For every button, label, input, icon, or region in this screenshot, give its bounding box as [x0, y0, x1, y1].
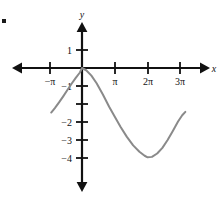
- y-axis-group: [77, 22, 88, 192]
- y-tick-label-neg-4: −4: [61, 153, 72, 164]
- y-tick-label-1: 1: [67, 45, 72, 56]
- x-tick-label-pi: π: [112, 76, 117, 87]
- figure-corner-mark: [2, 19, 6, 23]
- x-axis-arrow-right-icon: [200, 63, 210, 74]
- y-axis-label: y: [79, 9, 85, 20]
- y-tick-label-neg-3: −3: [61, 135, 72, 146]
- coordinate-plane: −π π 2π 3π 1 −1 −2 −3 −4 x y: [0, 0, 224, 197]
- x-tick-label-2pi: 2π: [143, 76, 153, 87]
- x-tick-label-neg-pi: −π: [45, 76, 56, 87]
- y-tick-labels: 1 −1 −2 −3 −4: [61, 45, 72, 164]
- y-tick-label-neg-2: −2: [61, 117, 72, 128]
- function-graph-figure: −π π 2π 3π 1 −1 −2 −3 −4 x y: [0, 0, 224, 197]
- x-tick-label-3pi: 3π: [175, 76, 185, 87]
- x-axis-arrow-left-icon: [12, 63, 22, 74]
- y-axis-arrow-down-icon: [77, 182, 88, 192]
- y-axis-arrow-up-icon: [77, 22, 88, 32]
- x-axis-label: x: [211, 63, 217, 74]
